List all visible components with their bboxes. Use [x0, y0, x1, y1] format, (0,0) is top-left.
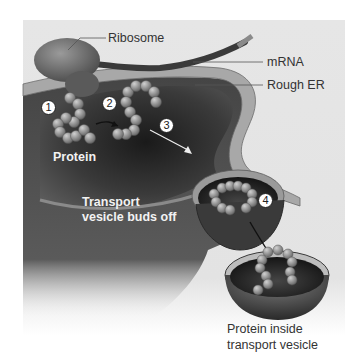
step-2-marker: 2 — [102, 96, 117, 111]
step-1-marker: 1 — [41, 100, 56, 115]
rough-er-label: Rough ER — [267, 78, 325, 92]
caption-line1: Protein inside — [227, 321, 303, 337]
protein-label: Protein — [53, 150, 96, 165]
vesicle-buds-label-line1: Transport — [82, 195, 140, 210]
transport-vesicle-interior — [230, 257, 324, 297]
caption-line2: transport vesicle — [227, 337, 318, 353]
mrna-label: mRNA — [267, 55, 304, 69]
vesicle-buds-label-line2: vesicle buds off — [82, 210, 176, 225]
step-4-marker: 4 — [258, 193, 273, 208]
step-3-marker: 3 — [159, 118, 174, 133]
diagram-artwork — [0, 0, 360, 364]
er-protein-diagram: Ribosome mRNA Rough ER Protein Transport… — [0, 0, 360, 364]
ribosome-label: Ribosome — [108, 31, 164, 45]
